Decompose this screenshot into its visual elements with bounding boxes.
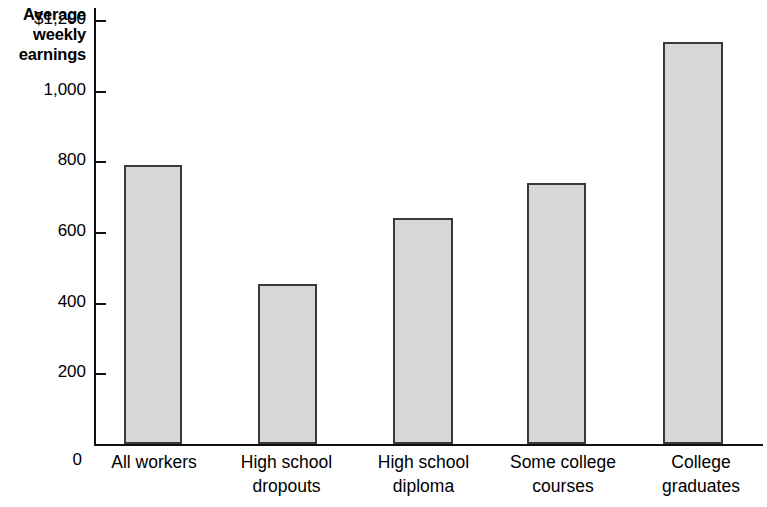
bar-college-graduates[interactable] [663,42,723,444]
x-label-college-graduates: College graduates [639,450,763,498]
bar-high-school-diploma[interactable] [393,218,453,444]
y-tick-label: 800 [58,150,86,170]
y-tick-mark [96,161,106,163]
y-axis-zero-label: 0 [52,450,82,470]
x-label-high-school-diploma: High school diploma [356,450,491,498]
plot-area: 200 400 600 800 1,000 $1,200 [94,8,763,446]
x-label-high-school-dropouts: High school dropouts [219,450,354,498]
bar-some-college-courses[interactable] [527,183,586,444]
x-label-line: Some college [493,450,633,474]
y-tick-mark [96,91,106,93]
y-tick-mark [96,373,106,375]
x-label-line: College [639,450,763,474]
y-tick-mark [96,20,106,22]
bar-chart-figure: Average weekly earnings 0 200 400 600 80… [0,0,767,507]
y-axis-line [94,8,96,446]
x-axis-line [94,444,763,446]
bar-high-school-dropouts[interactable] [258,284,317,444]
x-label-line: courses [493,474,633,498]
y-tick-label: 400 [58,292,86,312]
x-label-line: graduates [639,474,763,498]
y-tick-label: 1,000 [43,80,86,100]
x-axis-category-labels: All workers High school dropouts High sc… [94,450,763,505]
y-tick-label: 600 [58,221,86,241]
x-label-line: High school [219,450,354,474]
y-tick-label: $1,200 [34,9,86,29]
bar-all-workers[interactable] [124,165,182,444]
x-label-line: diploma [356,474,491,498]
x-label-line: All workers [94,450,214,474]
y-tick-label: 200 [58,362,86,382]
x-label-some-college-courses: Some college courses [493,450,633,498]
x-label-all-workers: All workers [94,450,214,474]
x-label-line: dropouts [219,474,354,498]
y-axis-title-line-3: earnings [0,44,86,64]
x-label-line: High school [356,450,491,474]
y-tick-mark [96,232,106,234]
y-tick-mark [96,303,106,305]
